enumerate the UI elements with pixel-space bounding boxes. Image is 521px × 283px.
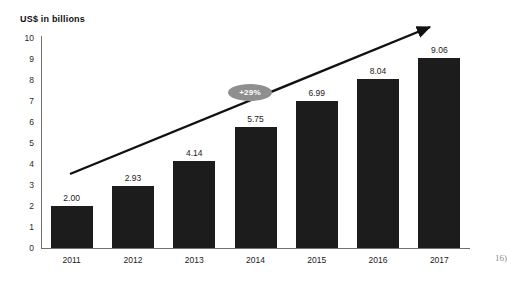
growth-badge: +29%	[228, 84, 272, 101]
growth-badge-label: +29%	[239, 88, 260, 97]
bar-chart: US$ in billions 109876543210 2.002.934.1…	[0, 0, 521, 283]
footnote-marker: 16)	[495, 253, 507, 263]
trend-arrow	[0, 0, 521, 283]
